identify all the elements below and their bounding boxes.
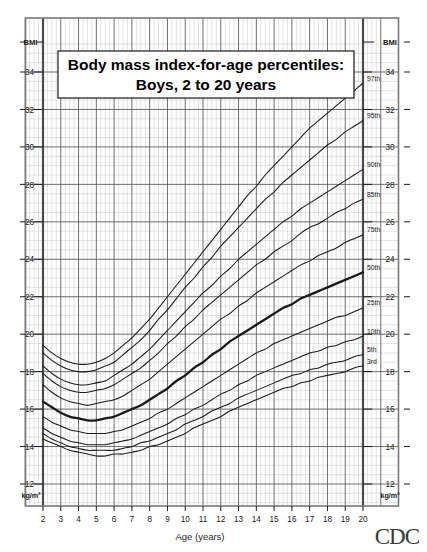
x-tick-15: 15 xyxy=(270,515,280,524)
y-tick-right-22: 22 xyxy=(385,293,395,302)
percentile-label-85th: 85th xyxy=(367,191,380,198)
x-tick-4: 4 xyxy=(76,515,81,524)
percentile-label-90th: 90th xyxy=(367,161,380,168)
percentile-label-95th: 95th xyxy=(367,112,380,119)
percentile-label-97th: 97th xyxy=(367,75,380,82)
y-tick-left-26: 26 xyxy=(25,218,35,227)
x-tick-9: 9 xyxy=(165,515,170,524)
y-tick-right-28: 28 xyxy=(385,181,395,190)
x-tick-19: 19 xyxy=(341,515,351,524)
y-tick-left-18: 18 xyxy=(25,368,35,377)
y-tick-left-14: 14 xyxy=(25,443,35,452)
y-tick-left-24: 24 xyxy=(25,255,35,264)
y-tick-left-16: 16 xyxy=(25,405,35,414)
y-tick-left-30: 30 xyxy=(25,143,35,152)
x-tick-17: 17 xyxy=(305,515,315,524)
chart-page: 234567891011121314151617181920 97th95th9… xyxy=(0,0,427,552)
y-tick-left-20: 20 xyxy=(25,330,35,339)
y-tick-right-26: 26 xyxy=(385,218,395,227)
x-tick-8: 8 xyxy=(147,515,152,524)
x-tick-10: 10 xyxy=(181,515,191,524)
x-tick-20: 20 xyxy=(358,515,368,524)
chart-title-line1: Body mass index-for-age percentiles: xyxy=(68,56,345,73)
x-tick-16: 16 xyxy=(287,515,297,524)
x-axis-label: Age (years) xyxy=(175,531,224,542)
y-tick-right-18: 18 xyxy=(385,368,395,377)
cdc-logo: CDC xyxy=(375,524,419,550)
x-tick-11: 11 xyxy=(199,515,208,524)
x-tick-6: 6 xyxy=(112,515,117,524)
bmi-growth-chart: 234567891011121314151617181920 97th95th9… xyxy=(0,0,427,552)
x-tick-3: 3 xyxy=(58,515,63,524)
percentile-label-50th: 50th xyxy=(367,264,380,271)
x-tick-12: 12 xyxy=(216,515,226,524)
y-tick-right-16: 16 xyxy=(385,405,395,414)
x-tick-2: 2 xyxy=(41,515,46,524)
y-axis-unit-left: kg/m² xyxy=(21,491,41,500)
percentile-label-75th: 75th xyxy=(367,226,380,233)
y-tick-right-34: 34 xyxy=(385,68,395,77)
y-tick-right-24: 24 xyxy=(385,255,395,264)
x-tick-14: 14 xyxy=(252,515,262,524)
y-tick-left-12: 12 xyxy=(25,480,35,489)
y-axis-title-right: BMI xyxy=(383,38,397,47)
chart-title-line2: Boys, 2 to 20 years xyxy=(136,76,276,93)
chart-title-box: Body mass index-for-age percentiles: Boy… xyxy=(58,51,354,98)
x-tick-18: 18 xyxy=(323,515,333,524)
percentile-label-3rd: 3rd xyxy=(367,358,377,365)
y-tick-right-20: 20 xyxy=(385,330,395,339)
percentile-label-10th: 10th xyxy=(367,328,380,335)
percentile-label-25th: 25th xyxy=(367,299,380,306)
x-tick-5: 5 xyxy=(94,515,99,524)
y-tick-left-28: 28 xyxy=(25,181,35,190)
y-tick-left-34: 34 xyxy=(25,68,35,77)
y-tick-right-12: 12 xyxy=(385,480,395,489)
x-tick-7: 7 xyxy=(130,515,135,524)
y-tick-left-32: 32 xyxy=(25,106,35,115)
y-tick-right-32: 32 xyxy=(385,106,395,115)
x-tick-13: 13 xyxy=(234,515,244,524)
y-tick-right-14: 14 xyxy=(385,443,395,452)
y-axis-unit-right: kg/m² xyxy=(380,491,400,500)
y-tick-right-30: 30 xyxy=(385,143,395,152)
percentile-label-5th: 5th xyxy=(367,346,377,353)
y-tick-left-22: 22 xyxy=(25,293,35,302)
y-axis-title-left: BMI xyxy=(24,38,38,47)
